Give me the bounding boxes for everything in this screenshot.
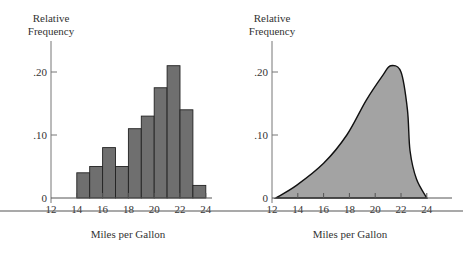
histogram-bars [77,66,206,198]
histogram-bar [141,116,154,198]
histogram-bar [90,167,103,199]
density-area [276,65,427,198]
histogram-chart: Relative Frequency 0.10.20 1214161820222… [28,12,212,240]
histogram-bar [193,185,206,198]
histogram-bar [180,110,193,198]
x-axis-label: Miles per Gallon [91,228,166,240]
histogram-bar [103,148,116,198]
y-axis-label-line1: Relative [254,12,291,24]
y-tick-label: .10 [33,129,47,141]
histogram-bar [167,66,180,198]
y-tick-label: .10 [254,129,268,141]
density-curve-chart: Relative Frequency 0.10.20 1214161820222… [249,12,452,240]
x-tick-label: 22 [396,203,407,215]
x-tick-label: 12 [267,203,278,215]
y-ticks: 0.10.20 [254,66,278,204]
y-tick-label: .20 [33,66,47,78]
y-tick-label: .20 [254,66,268,78]
x-tick-label: 16 [318,203,330,215]
x-tick-label: 12 [46,203,57,215]
histogram-bar [154,88,167,198]
histogram-bar [116,167,129,199]
y-ticks: 0.10.20 [33,66,57,204]
x-tick-label: 20 [149,203,161,215]
histogram-bar [77,173,90,198]
x-tick-label: 14 [292,203,304,215]
x-tick-label: 14 [71,203,83,215]
x-tick-label: 16 [97,203,109,215]
x-tick-label: 20 [370,203,382,215]
histogram-bar [128,129,141,198]
x-tick-label: 24 [421,203,433,215]
y-axis-label-line1: Relative [33,12,70,24]
x-tick-label: 24 [200,203,212,215]
figure: Relative Frequency 0.10.20 1214161820222… [0,0,475,260]
x-tick-label: 22 [175,203,186,215]
x-tick-label: 18 [123,203,135,215]
x-axis-label: Miles per Gallon [313,228,388,240]
x-tick-label: 18 [344,203,356,215]
y-axis-label-line2: Frequency [249,25,296,37]
y-axis-label-line2: Frequency [28,25,75,37]
